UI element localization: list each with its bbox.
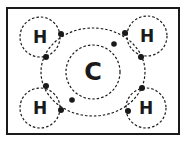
hydrogen-label-bottom-right: H	[139, 98, 153, 118]
electron	[58, 107, 64, 113]
inner-electron	[111, 41, 117, 47]
electron	[125, 108, 131, 114]
carbon-label: C	[84, 58, 102, 86]
hydrogen-label-top-right: H	[140, 26, 154, 46]
hydrogen-label-bottom-left: H	[33, 98, 47, 118]
electron	[122, 30, 128, 36]
electron	[138, 54, 144, 60]
electron	[43, 83, 49, 89]
electron	[58, 31, 64, 37]
electron	[139, 85, 145, 91]
methane-diagram: C H H H H	[0, 0, 186, 141]
hydrogen-label-top-left: H	[33, 27, 47, 47]
electron	[43, 54, 49, 60]
inner-electron	[69, 97, 75, 103]
